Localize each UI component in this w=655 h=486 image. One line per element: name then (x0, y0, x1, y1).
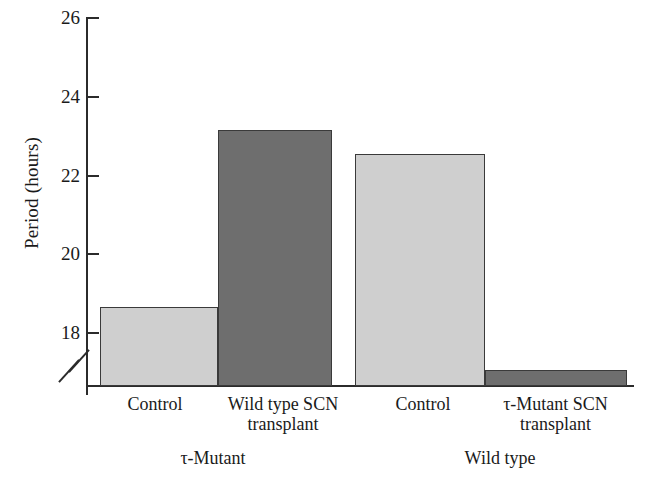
bar-wildtype-control (355, 154, 485, 387)
y-tick-label-20: 20 (40, 244, 80, 263)
category-label-bar4: τ-Mutant SCN transplant (478, 394, 633, 434)
y-tick-label-22: 22 (40, 166, 80, 185)
group-label-wild-type: Wild type (405, 448, 595, 469)
y-tick-24 (88, 96, 99, 98)
bar-tau-mutant-wildtype-scn-transplant (218, 130, 332, 386)
group-label-tau-mutant: τ-Mutant (118, 448, 308, 469)
category-label-bar3: Control (363, 394, 483, 414)
category-label-bar2-line1: Wild type SCN (208, 394, 358, 414)
y-tick-label-24: 24 (40, 87, 80, 106)
y-tick-20 (88, 253, 99, 255)
category-label-bar3-line1: Control (363, 394, 483, 414)
y-axis-line (86, 17, 88, 395)
plot-area: 26 24 22 20 18 (86, 10, 634, 388)
y-tick-18 (88, 332, 99, 334)
y-axis-label: Period (hours) (21, 83, 43, 303)
category-label-bar4-line2: transplant (478, 414, 633, 434)
bar-wildtype-tau-mutant-scn-transplant (485, 370, 627, 386)
y-tick-26 (88, 17, 99, 19)
category-label-bar2: Wild type SCN transplant (208, 394, 358, 434)
y-tick-22 (88, 175, 99, 177)
y-tick-label-18: 18 (40, 323, 80, 342)
axis-break-mark-lower (58, 359, 80, 383)
bar-chart-figure: Period (hours) 26 24 22 20 18 Control Wi… (0, 0, 655, 486)
category-label-bar1-line1: Control (95, 394, 215, 414)
category-label-bar2-line2: transplant (208, 414, 358, 434)
y-tick-label-26: 26 (40, 8, 80, 27)
category-label-bar1: Control (95, 394, 215, 414)
category-label-bar4-line1: τ-Mutant SCN (478, 394, 633, 414)
bar-tau-mutant-control (100, 307, 218, 386)
